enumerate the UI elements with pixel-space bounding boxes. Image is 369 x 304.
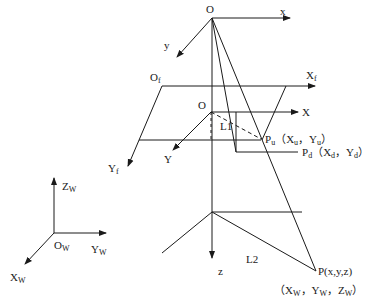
world-x-axis (25, 233, 54, 264)
pd-label: Pd（Xd，Yd） (302, 147, 369, 160)
z-label: z (218, 266, 223, 277)
camera-origin-label: O (206, 4, 214, 15)
image-plane-yf-axis (128, 86, 162, 166)
image-y-label: Y (164, 154, 172, 165)
z-plane-diagonal (162, 212, 212, 253)
world-x-label: XW (10, 272, 26, 285)
camera-x-label: x (280, 6, 286, 17)
l2-line (212, 212, 316, 271)
world-origin-label: OW (54, 240, 70, 253)
l1-label: L1 (220, 121, 232, 132)
camera-y-axis (177, 18, 212, 57)
image-origin-label: O (198, 100, 206, 111)
p-world-coords: （XW，YW，ZW） (274, 285, 363, 298)
world-z-label: ZW (62, 181, 76, 194)
image-plane-origin-label: Of (150, 72, 161, 85)
l2-label: L2 (246, 254, 258, 265)
world-y-label: YW (91, 244, 107, 257)
camera-y-label: y (164, 40, 170, 51)
image-plane-y-label: Yf (108, 163, 119, 176)
image-y-axis (173, 112, 211, 150)
image-plane-x-label: Xf (306, 70, 317, 83)
image-plane-right (262, 86, 286, 140)
p-label: P(x,y,z) (318, 266, 352, 277)
image-x-label: X (302, 107, 310, 118)
